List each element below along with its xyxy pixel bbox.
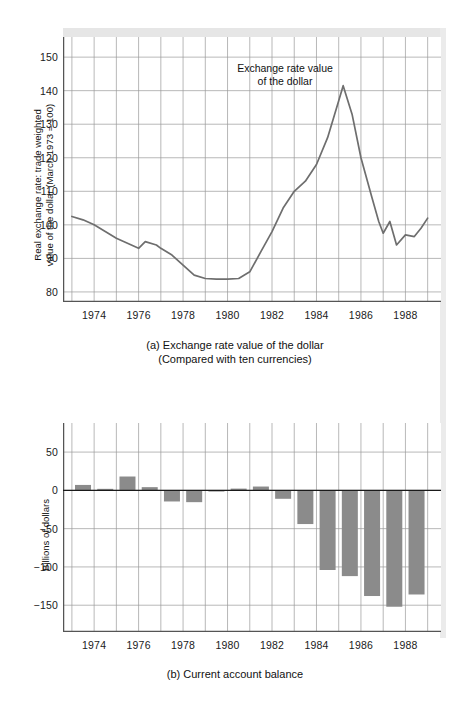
chart-b-xtick-1974: 1974 <box>82 639 106 651</box>
chart-a-ytick-140: 140 <box>40 85 58 97</box>
chart-b-xtick-1986: 1986 <box>349 639 373 651</box>
chart-a-annotation: Exchange rate value of the dollar <box>237 62 333 88</box>
chart-b-ytick--150: −150 <box>34 599 58 611</box>
chart-a-xtick-1986: 1986 <box>349 309 373 321</box>
chart-a-caption-line1: (a) Exchange rate value of the dollar <box>146 339 323 351</box>
chart-a-xtick-1974: 1974 <box>82 309 106 321</box>
chart-b-xtick-1984: 1984 <box>304 639 328 651</box>
chart-a-xtick-1980: 1980 <box>215 309 239 321</box>
chart-b-ytick-50: 50 <box>46 446 58 458</box>
chart-a-ytick-80: 80 <box>46 286 58 298</box>
chart-a-ytick-120: 120 <box>40 152 58 164</box>
chart-a-ytick-90: 90 <box>46 252 58 264</box>
chart-a-annotation-line2: of the dollar <box>258 75 313 87</box>
chart-a-caption: (a) Exchange rate value of the dollar (C… <box>0 338 470 366</box>
chart-a-ytick-130: 130 <box>40 118 58 130</box>
chart-b-ytick--100: −100 <box>34 561 58 573</box>
chart-a-xtick-1982: 1982 <box>260 309 284 321</box>
chart-a-xtick-1976: 1976 <box>127 309 151 321</box>
chart-b-xtick-1976: 1976 <box>127 639 151 651</box>
chart-a-xtick-1978: 1978 <box>171 309 195 321</box>
figure-current-account: Billions of dollars 19741976197819801982… <box>0 400 470 720</box>
chart-b-ytick--50: −50 <box>40 523 58 535</box>
chart-a-ytick-150: 150 <box>40 51 58 63</box>
chart-b-xtick-1980: 1980 <box>215 639 239 651</box>
chart-b-svg <box>63 423 441 632</box>
figure-exchange-rate: Real exchange rate: trade weighted value… <box>0 0 470 390</box>
chart-a-xtick-1984: 1984 <box>304 309 328 321</box>
chart-b-caption-line1: (b) Current account balance <box>167 668 303 680</box>
chart-a-annotation-line1: Exchange rate value <box>237 62 333 74</box>
figure-page: Real exchange rate: trade weighted value… <box>0 0 470 720</box>
chart-b-caption: (b) Current account balance <box>0 667 470 681</box>
chart-a-xtick-1988: 1988 <box>393 309 417 321</box>
chart-b-xtick-1978: 1978 <box>171 639 195 651</box>
chart-a-ytick-110: 110 <box>41 185 58 197</box>
chart-a-caption-line2: (Compared with ten currencies) <box>158 353 311 365</box>
chart-b-yaxis-title: Billions of dollars <box>40 455 52 615</box>
chart-b-xtick-1988: 1988 <box>393 639 417 651</box>
chart-a-ytick-100: 100 <box>40 219 58 231</box>
chart-b-ytick-0: 0 <box>52 484 58 496</box>
chart-b-xtick-1982: 1982 <box>260 639 284 651</box>
chart-b-plot-area <box>63 423 441 632</box>
